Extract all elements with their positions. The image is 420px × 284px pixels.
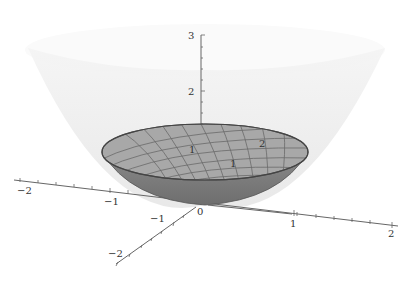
paraboloid-plot: −2 −1 0 1 2 3 2 [0, 0, 420, 284]
inner-bowl-surface: 1 1 2 [100, 122, 310, 205]
x-tick-label: 2 [388, 228, 394, 239]
y-axis: −2 −1 [108, 207, 196, 266]
y-tick-label: −1 [150, 213, 165, 224]
z-tick-label: 3 [188, 30, 194, 41]
z-tick-label: 2 [188, 86, 194, 97]
x-tick-label: 0 [197, 206, 203, 217]
x-tick-label: 1 [290, 218, 296, 229]
bowl-label: 1 [189, 144, 195, 155]
x-tick-label: −1 [104, 196, 119, 207]
bowl-label: 1 [230, 158, 236, 169]
y-tick-label: −2 [108, 248, 123, 259]
x-tick-label: −2 [17, 185, 32, 196]
bowl-label: 2 [259, 138, 265, 149]
x-axis-front [208, 205, 292, 214]
